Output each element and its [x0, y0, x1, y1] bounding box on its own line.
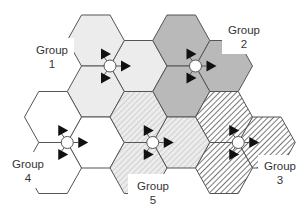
- group-number-4: 4: [25, 172, 32, 184]
- group-number-1: 1: [49, 58, 55, 70]
- site-circle-icon: [61, 137, 73, 149]
- group-label-4: Group: [12, 158, 44, 170]
- group-label-3: Group: [264, 160, 296, 172]
- group-number-5: 5: [150, 194, 156, 206]
- group-label-1: Group: [36, 44, 68, 56]
- site-circle-icon: [190, 60, 202, 72]
- group-label-2: Group: [228, 24, 260, 36]
- group-number-2: 2: [241, 38, 247, 50]
- site-circle-icon: [104, 60, 116, 72]
- hex-cluster-diagram: Group1Group2Group3Group4Group5: [0, 0, 307, 211]
- site-circle-icon: [147, 137, 159, 149]
- group-label-5: Group: [137, 180, 169, 192]
- site-circle-icon: [232, 137, 244, 149]
- group-number-3: 3: [277, 174, 283, 186]
